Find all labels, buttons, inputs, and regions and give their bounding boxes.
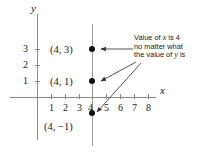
annotation-line-1-pre: Value of <box>134 33 163 42</box>
annotation-line-3: the value of y is <box>134 51 185 60</box>
annotation-line-1-post: is 4 <box>166 33 180 42</box>
annotation-text-block: Value of x is 4 no matter what the value… <box>134 34 185 60</box>
coordinate-plane-figure: y x 1 2 3 4 5 6 7 8 1 2 3 (4, 3) (4, 1) … <box>0 0 208 156</box>
annotation-leader-lines <box>0 0 208 156</box>
annotation-line-3-post: is <box>178 50 185 59</box>
leader-to-point-4-1 <box>101 62 136 81</box>
annotation-line-3-pre: the value of <box>134 50 174 59</box>
leader-to-point-4-neg1 <box>97 63 141 112</box>
